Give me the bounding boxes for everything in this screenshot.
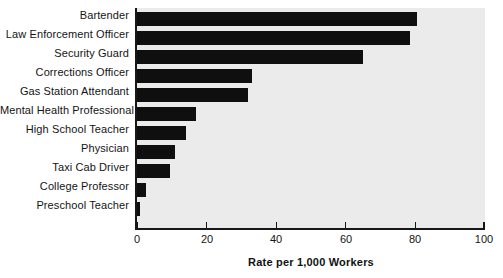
- bar-high-school-teacher: [137, 126, 186, 140]
- x-tick-label-0: 0: [117, 233, 157, 245]
- bar-bartender: [137, 12, 417, 26]
- x-tick-label-60: 60: [326, 233, 366, 245]
- x-tick-20: [206, 222, 207, 229]
- category-label-corrections-officer: Corrections Officer: [0, 67, 129, 78]
- bar-corrections-officer: [137, 69, 252, 83]
- x-tick-40: [276, 222, 277, 229]
- category-label-mental-health-professional: Mental Health Professional: [0, 105, 129, 116]
- x-axis-title: Rate per 1,000 Workers: [137, 256, 485, 268]
- category-label-preschool-teacher: Preschool Teacher: [0, 200, 129, 211]
- x-axis-line: [135, 228, 485, 230]
- bar-mental-health-professional: [137, 107, 196, 121]
- bar-security-guard: [137, 50, 363, 64]
- bar-law-enforcement-officer: [137, 31, 410, 45]
- category-label-gas-station-attendant: Gas Station Attendant: [0, 86, 129, 97]
- category-axis: Bartender Law Enforcement Officer Securi…: [0, 8, 133, 228]
- x-tick-60: [345, 222, 346, 229]
- bar-taxi-cab-driver: [137, 164, 170, 178]
- x-tick-0: [136, 222, 138, 230]
- x-tick-100: [483, 222, 485, 230]
- x-tick-80: [415, 222, 416, 229]
- x-tick-label-20: 20: [187, 233, 227, 245]
- bar-preschool-teacher: [137, 202, 140, 216]
- y-axis-line: [135, 8, 137, 230]
- x-tick-label-40: 40: [256, 233, 296, 245]
- category-label-bartender: Bartender: [0, 10, 129, 21]
- category-label-taxi-cab-driver: Taxi Cab Driver: [0, 162, 129, 173]
- bar-gas-station-attendant: [137, 88, 248, 102]
- category-label-physician: Physician: [0, 143, 129, 154]
- category-label-security-guard: Security Guard: [0, 48, 129, 59]
- plot-area: [137, 8, 485, 228]
- bar-college-professor: [137, 183, 146, 197]
- x-tick-label-80: 80: [395, 233, 435, 245]
- x-tick-label-100: 100: [464, 233, 503, 245]
- bar-physician: [137, 145, 175, 159]
- category-label-college-professor: College Professor: [0, 181, 129, 192]
- bar-chart: Bartender Law Enforcement Officer Securi…: [0, 0, 503, 278]
- category-label-high-school-teacher: High School Teacher: [0, 124, 129, 135]
- category-label-law-enforcement-officer: Law Enforcement Officer: [0, 29, 129, 40]
